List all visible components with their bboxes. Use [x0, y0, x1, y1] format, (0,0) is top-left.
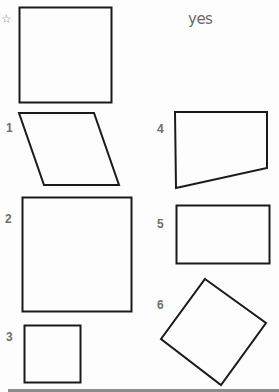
- shape-2-square: [23, 198, 132, 312]
- item-number-5: 5: [157, 218, 164, 230]
- item-number-4: 4: [157, 123, 164, 135]
- item-number-2: 2: [5, 213, 12, 225]
- worksheet-page: ☆ yes 1 2 3 4 5 6: [0, 0, 279, 392]
- shape-1-parallelogram: [19, 113, 119, 185]
- shape-5-rectangle: [177, 206, 270, 264]
- item-number-6: 6: [157, 299, 164, 311]
- shape-3-square: [25, 326, 81, 383]
- example-answer: yes: [188, 12, 212, 27]
- item-number-1: 1: [6, 122, 13, 134]
- example-square-shape: [20, 8, 112, 103]
- shape-6-rotated-square: [161, 279, 266, 385]
- item-number-3: 3: [6, 331, 13, 343]
- shape-4-trapezoid: [175, 112, 267, 188]
- shapes-canvas: [0, 0, 279, 392]
- star-outline-icon: ☆: [1, 13, 12, 25]
